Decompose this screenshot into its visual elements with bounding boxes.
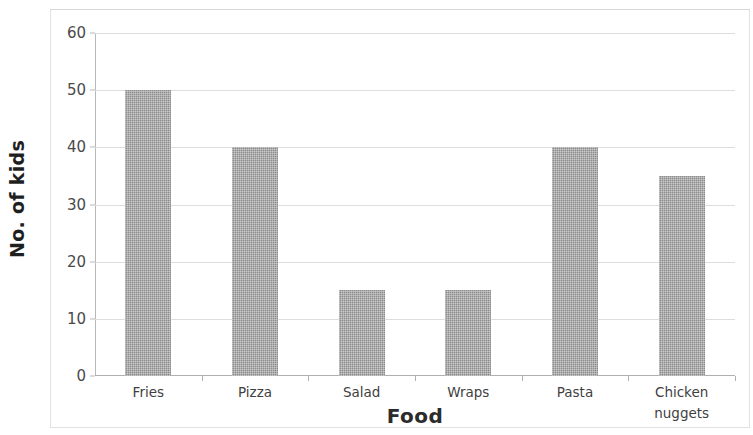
x-axis-tick-label-line: Pasta (522, 382, 629, 403)
bar-slot (522, 33, 629, 376)
x-axis-tick-label: Pasta (522, 382, 629, 403)
x-axis-tick-label: Fries (95, 382, 202, 403)
y-axis-tick-label: 30 (67, 196, 86, 214)
x-axis-tick-mark (628, 376, 629, 381)
bar[interactable] (339, 290, 385, 376)
y-axis-tick-label: 20 (67, 253, 86, 271)
bar[interactable] (125, 90, 171, 376)
y-axis-tick-label: 50 (67, 81, 86, 99)
x-axis-tick-label-line: Pizza (202, 382, 309, 403)
x-axis-tick-mark (415, 376, 416, 381)
bar-chart: Kids' favorite foods 0102030405060 Fries… (0, 0, 753, 435)
bar-series (95, 33, 735, 376)
y-axis-tick-label: 0 (76, 367, 86, 385)
x-axis-tick-mark (202, 376, 203, 381)
x-axis-tick-label: Wraps (415, 382, 522, 403)
bar-slot (95, 33, 202, 376)
x-axis-tick-label: Pizza (202, 382, 309, 403)
bar[interactable] (659, 176, 705, 376)
y-axis-tick-label: 40 (67, 138, 86, 156)
x-axis-tick-label: Salad (308, 382, 415, 403)
bar[interactable] (232, 147, 278, 376)
x-axis-tick-label-line: Wraps (415, 382, 522, 403)
plot-area: 0102030405060 (95, 33, 735, 376)
y-axis-title: No. of kids (6, 119, 28, 279)
y-axis-tick-label: 60 (67, 24, 86, 42)
x-axis-tick-mark (522, 376, 523, 381)
x-axis-title: Food (95, 404, 735, 428)
x-axis-tick-label-line: Chicken (628, 382, 735, 403)
x-axis-tick-label-line: Salad (308, 382, 415, 403)
bar-slot (202, 33, 309, 376)
x-axis-tick-mark (735, 376, 736, 381)
bar-slot (628, 33, 735, 376)
bar-slot (415, 33, 522, 376)
bar[interactable] (445, 290, 491, 376)
bar-slot (308, 33, 415, 376)
x-axis-tick-mark (308, 376, 309, 381)
y-axis-tick-label: 10 (67, 310, 86, 328)
x-axis-tick-label-line: Fries (95, 382, 202, 403)
bar[interactable] (552, 147, 598, 376)
